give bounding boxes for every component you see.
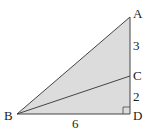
label-d: D (133, 108, 142, 123)
label-b: B (4, 108, 13, 123)
triangle-diagram: A C D B 3 2 6 (0, 0, 144, 129)
triangle-abd (17, 17, 130, 114)
measure-cd: 2 (133, 89, 140, 104)
diagram-svg: A C D B 3 2 6 (0, 0, 144, 129)
measure-ac: 3 (133, 38, 140, 53)
label-c: C (133, 68, 142, 83)
measure-bd: 6 (72, 116, 79, 129)
label-a: A (133, 6, 143, 21)
